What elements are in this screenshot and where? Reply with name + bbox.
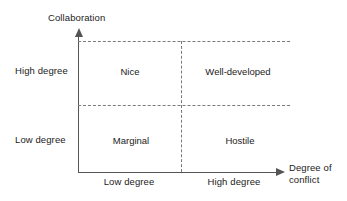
quadrant-label-hostile: Hostile [225,135,254,146]
y-axis-level-low: Low degree [15,134,66,145]
x-axis-title-line1: Degree of [289,162,332,173]
x-axis-title-line2: conflict [289,174,319,185]
quadrant-label-well-developed: Well-developed [205,66,270,77]
x-axis-level-high: High degree [208,176,261,187]
quadrant-label-marginal: Marginal [113,135,149,146]
grid-line-middle [78,105,290,106]
y-axis-title: Collaboration [48,12,105,23]
diagram-canvas: Collaboration High degree Low degree Low… [0,0,347,201]
grid-line-top [78,41,290,42]
quadrant-label-nice: Nice [120,66,139,77]
x-axis-arrow-icon [276,168,285,176]
y-axis-arrow-icon [75,28,83,37]
y-axis-level-high: High degree [15,65,68,76]
grid-line-vertical [181,41,182,172]
x-axis-level-low: Low degree [104,176,155,187]
x-axis-title: Degree of conflict [289,162,345,185]
x-axis-line [78,172,281,173]
